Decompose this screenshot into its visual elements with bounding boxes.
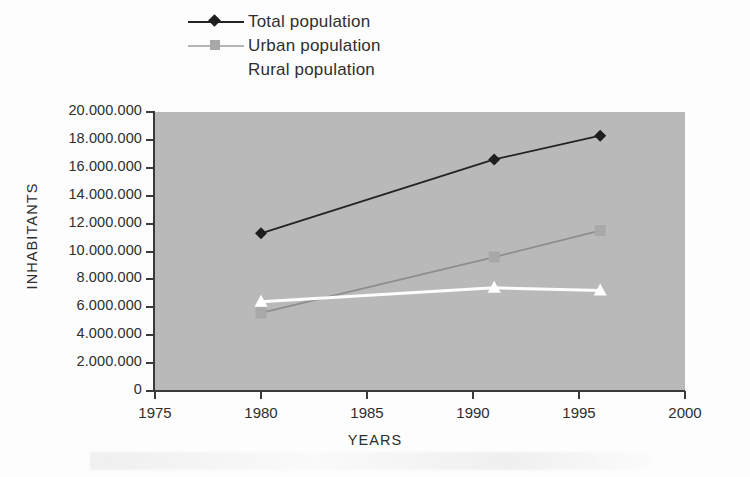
- y-axis-tick: [146, 111, 154, 113]
- x-axis-line: [153, 390, 685, 392]
- x-axis-tick: [366, 391, 368, 399]
- y-axis-tick: [146, 278, 154, 280]
- y-axis-title: INHABITANTS: [24, 156, 40, 316]
- x-axis-tick-label: 1995: [549, 404, 609, 421]
- population-line-chart-figure: Total population Urban population Rural …: [0, 0, 750, 477]
- legend-key-rural: [186, 59, 248, 81]
- y-axis-tick-label: 18.000.000: [50, 130, 142, 146]
- square-marker-icon: [210, 40, 220, 50]
- y-axis-tick: [146, 223, 154, 225]
- y-axis-tick-label: 12.000.000: [50, 214, 142, 230]
- chart-legend: Total population Urban population Rural …: [186, 10, 486, 82]
- series-rural-population: [255, 281, 607, 307]
- x-axis-tick: [154, 391, 156, 399]
- y-axis-tick-label: 0: [50, 381, 142, 397]
- x-axis-tick-label: 1985: [337, 404, 397, 421]
- y-axis-tick-label: 2.000.000: [50, 353, 142, 369]
- series-canvas: [155, 112, 685, 391]
- legend-label-urban: Urban population: [248, 36, 381, 56]
- diamond-marker-icon: [255, 227, 267, 239]
- y-axis-tick: [146, 362, 154, 364]
- x-axis-tick-label: 1980: [231, 404, 291, 421]
- diamond-marker-icon: [488, 153, 500, 165]
- y-axis-tick: [146, 306, 154, 308]
- plot-area: [155, 112, 685, 391]
- x-axis-tick: [472, 391, 474, 399]
- square-marker-icon: [256, 307, 267, 318]
- x-axis-tick-label: 2000: [655, 404, 715, 421]
- x-axis-tick: [260, 391, 262, 399]
- x-axis-title: YEARS: [0, 432, 750, 448]
- y-axis-tick-label: 6.000.000: [50, 297, 142, 313]
- y-axis-tick: [146, 390, 154, 392]
- legend-item-total-population: Total population: [186, 10, 486, 34]
- y-axis-tick-label: 20.000.000: [50, 102, 142, 118]
- square-marker-icon: [595, 225, 606, 236]
- legend-key-urban: [186, 35, 248, 57]
- series-line: [261, 288, 600, 302]
- diamond-marker-icon: [208, 14, 221, 27]
- y-axis-tick: [146, 251, 154, 253]
- x-axis-tick-label: 1975: [125, 404, 185, 421]
- triangle-marker-icon: [210, 64, 222, 74]
- series-line: [261, 231, 600, 313]
- legend-label-rural: Rural population: [248, 60, 375, 80]
- y-axis-tick-label: 4.000.000: [50, 325, 142, 341]
- series-line: [261, 136, 600, 234]
- x-axis-tick: [578, 391, 580, 399]
- x-axis-tick-label: 1990: [443, 404, 503, 421]
- diamond-marker-icon: [594, 130, 606, 142]
- legend-item-urban-population: Urban population: [186, 34, 486, 58]
- square-marker-icon: [489, 252, 500, 263]
- y-axis-tick-label: 10.000.000: [50, 242, 142, 258]
- series-total-population: [255, 130, 606, 240]
- legend-key-total: [186, 11, 248, 33]
- y-axis-tick: [146, 139, 154, 141]
- scan-artifact: [90, 452, 650, 470]
- y-axis-tick: [146, 334, 154, 336]
- y-axis-tick: [146, 167, 154, 169]
- y-axis-tick: [146, 195, 154, 197]
- y-axis-tick-label: 16.000.000: [50, 158, 142, 174]
- legend-label-total: Total population: [248, 12, 370, 32]
- x-axis-tick: [684, 391, 686, 399]
- series-urban-population: [256, 225, 606, 318]
- legend-item-rural-population: Rural population: [186, 58, 486, 82]
- y-axis-tick-label: 14.000.000: [50, 186, 142, 202]
- y-axis-tick-label: 8.000.000: [50, 269, 142, 285]
